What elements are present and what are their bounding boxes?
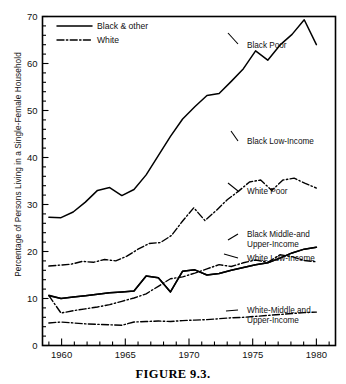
- series-group: [49, 20, 317, 326]
- annotation-white-middle-upper-line1: White-Middle and: [247, 306, 311, 315]
- y-tick-label: 70: [27, 11, 38, 22]
- x-axis-ticks: 19601965197019751980: [49, 339, 329, 361]
- series-line-white-low-income: [49, 255, 317, 313]
- annotation-white-low-income: White Low-Income: [247, 254, 315, 263]
- chart-legend: Black & other White: [57, 21, 148, 45]
- chart-canvas: 010203040506070 19601965197019751980 Bla…: [0, 0, 346, 384]
- y-tick-label: 60: [27, 58, 38, 69]
- y-tick-label: 20: [27, 246, 38, 257]
- x-tick-label: 1960: [51, 349, 72, 360]
- annotation-leader-line: [228, 183, 238, 191]
- y-axis-ticks: 010203040506070: [27, 11, 49, 351]
- y-tick-label: 50: [27, 105, 38, 116]
- y-tick-label: 30: [27, 199, 38, 210]
- x-tick-label: 1975: [242, 349, 263, 360]
- annotation-black-low-income: Black Low-Income: [247, 137, 314, 146]
- annotation-white-poor: White Poor: [247, 187, 288, 196]
- y-tick-label: 0: [32, 340, 37, 351]
- x-tick-label: 1965: [115, 349, 136, 360]
- annotation-leader-line: [226, 310, 238, 311]
- annotation-black-middle-upper-line2: Upper-Income: [247, 240, 299, 249]
- annotation-leader-line: [228, 234, 238, 240]
- annotation-black-middle-upper-line1: Black Middle-and: [247, 230, 310, 239]
- x-tick-label: 1980: [306, 349, 327, 360]
- legend-label-black-other: Black & other: [97, 21, 148, 31]
- y-tick-label: 40: [27, 152, 38, 163]
- annotation-leader-line: [231, 131, 238, 141]
- legend-label-white: White: [97, 35, 119, 45]
- y-tick-label: 10: [27, 293, 38, 304]
- annotation-black-poor: Black Poor: [247, 41, 287, 50]
- annotation-white-middle-upper-line2: Upper-Income: [247, 316, 299, 325]
- x-tick-label: 1970: [178, 349, 199, 360]
- annotation-leader-line: [228, 33, 238, 44]
- annotation-leader-line: [224, 254, 238, 258]
- figure-caption: FIGURE 9.3.: [0, 367, 346, 382]
- figure-9-3: Percentage of Persons Living in a Single…: [0, 0, 346, 384]
